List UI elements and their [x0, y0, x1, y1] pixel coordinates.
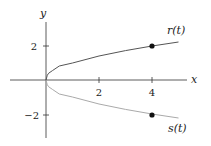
r-series-label: r(t) — [167, 24, 185, 37]
x-tick-label-4: 4 — [149, 87, 155, 98]
chart-canvas: 2 4 2 −2 x y r(t) s(t) — [0, 0, 211, 146]
s-point — [149, 112, 154, 117]
y-tick-label-2: 2 — [31, 41, 37, 52]
r-point — [149, 43, 154, 48]
y-axis-label: y — [39, 7, 47, 20]
x-tick-label-2: 2 — [96, 87, 102, 98]
x-axis-label: x — [191, 73, 198, 86]
y-tick-label-neg2: −2 — [24, 110, 39, 121]
s-series-label: s(t) — [168, 122, 187, 135]
s-curve — [46, 80, 179, 118]
r-curve — [46, 42, 179, 80]
